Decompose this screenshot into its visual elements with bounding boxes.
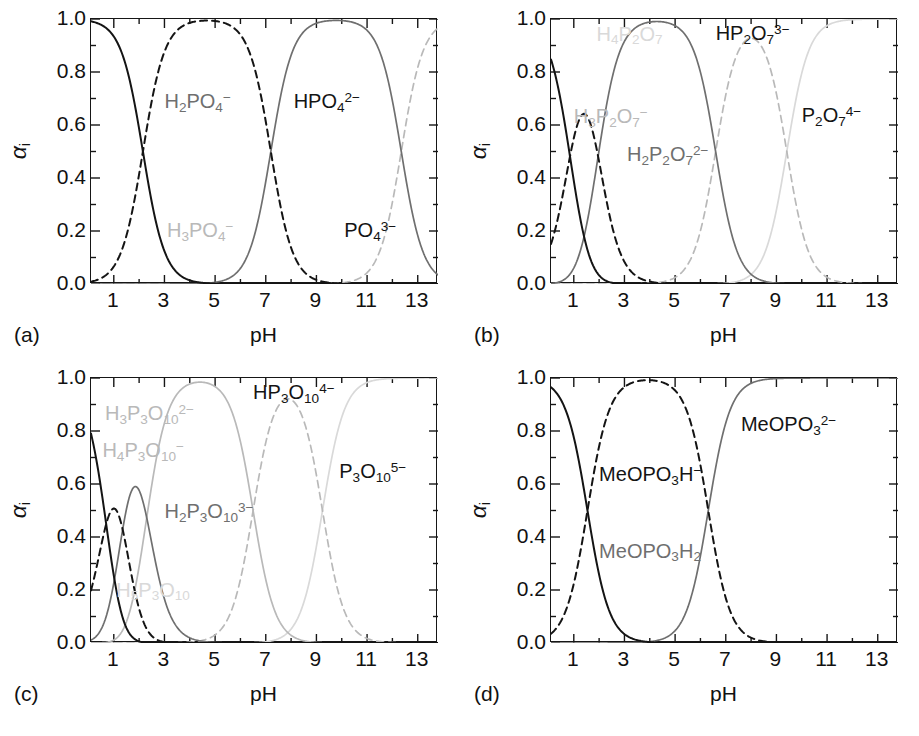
y-tick-labels-b: 0.00.20.40.60.81.0 [494, 18, 546, 283]
species-label: MeOPO3H2 [599, 541, 701, 567]
y-tick-label: 0.4 [500, 525, 546, 546]
y-tick-label: 0.8 [40, 60, 86, 81]
x-tick-label: 11 [815, 648, 837, 669]
x-tick-label: 1 [567, 648, 579, 669]
x-tick-label: 11 [355, 648, 377, 669]
x-tick-label: 11 [815, 289, 837, 310]
y-tick-label: 0.6 [40, 472, 86, 493]
y-tick-label: 0.8 [40, 419, 86, 440]
y-tick-labels-c: 0.00.20.40.60.81.0 [34, 377, 86, 642]
x-tick-label: 5 [668, 648, 680, 669]
curve-canvas-b [551, 19, 898, 284]
x-tick-label: 1 [107, 648, 119, 669]
y-tick-label: 1.0 [500, 366, 546, 387]
plot-area-c: H5P3O10H4P3O10−H3P3O102−H2P3O103−HP3O104… [90, 377, 437, 642]
species-label: MeOPO3H− [599, 461, 701, 491]
y-tick-label: 1.0 [40, 7, 86, 28]
panel-a: 0.00.20.40.60.81.0 αi H3PO4−H2PO4−HPO42−… [0, 0, 460, 355]
y-tick-label: 0.0 [40, 631, 86, 652]
y-axis-title-b: αi [465, 134, 493, 168]
x-tick-label: 9 [770, 648, 782, 669]
panel-label-a: (a) [14, 323, 40, 347]
y-tick-label: 0.4 [40, 525, 86, 546]
curves-d [551, 378, 896, 641]
species-label: H4P2O7 [597, 24, 663, 50]
species-curve [551, 59, 898, 284]
species-label: H2P3O103− [164, 498, 253, 528]
x-tick-label: 3 [618, 648, 630, 669]
x-tick-label: 7 [719, 648, 731, 669]
y-tick-label: 0.4 [40, 166, 86, 187]
x-tick-label: 7 [259, 289, 271, 310]
x-tick-labels-d: 135791113 [550, 648, 897, 678]
species-curve [551, 38, 898, 284]
panel-label-c: (c) [14, 682, 39, 706]
panel-c: 0.00.20.40.60.81.0 αi H5P3O10H4P3O10−H3P… [0, 355, 460, 736]
x-tick-labels-c: 135791113 [90, 648, 437, 678]
species-label: H2PO4− [164, 88, 230, 118]
y-tick-label: 1.0 [500, 7, 546, 28]
y-tick-label: 0.6 [40, 113, 86, 134]
species-label: P2O74− [802, 102, 862, 132]
species-label: H2P2O72− [627, 141, 709, 171]
species-label: P3O105− [339, 458, 406, 488]
y-tick-label: 0.2 [500, 219, 546, 240]
species-label: H3PO4− [167, 217, 233, 247]
x-axis-title-d: pH [664, 682, 784, 706]
panel-label-b: (b) [474, 323, 500, 347]
y-tick-label: 0.8 [500, 419, 546, 440]
x-axis-title-c: pH [204, 682, 324, 706]
species-label: H4P3O10− [102, 437, 184, 467]
x-tick-label: 7 [259, 648, 271, 669]
x-tick-label: 7 [719, 289, 731, 310]
x-tick-label: 9 [770, 289, 782, 310]
x-tick-label: 3 [618, 289, 630, 310]
y-tick-label: 0.2 [500, 578, 546, 599]
species-label: H3P2O7− [574, 103, 648, 133]
y-tick-label: 0.0 [500, 631, 546, 652]
x-axis-title-a: pH [204, 323, 324, 347]
y-tick-label: 0.6 [500, 113, 546, 134]
x-tick-labels-b: 135791113 [550, 289, 897, 319]
species-curve [551, 378, 898, 643]
y-axis-title-a: αi [5, 134, 33, 168]
species-label: HP2O73− [716, 20, 790, 50]
y-tick-label: 1.0 [40, 366, 86, 387]
panel-d: 0.00.20.40.60.81.0 αi MeOPO3H2MeOPO3H−Me… [460, 355, 919, 736]
plot-area-a: H3PO4−H2PO4−HPO42−PO43− [90, 18, 437, 283]
species-label: H3P3O102− [105, 400, 194, 430]
species-label: H5P3O10 [116, 580, 190, 606]
y-tick-label: 0.2 [40, 578, 86, 599]
y-tick-label: 0.8 [500, 60, 546, 81]
y-axis-title-d: αi [465, 493, 493, 527]
panel-b: 0.00.20.40.60.81.0 αi H4P2O7H3P2O7−H2P2O… [460, 0, 919, 355]
species-curve [91, 487, 438, 643]
x-tick-label: 5 [208, 289, 220, 310]
y-tick-labels-d: 0.00.20.40.60.81.0 [494, 377, 546, 642]
x-axis-title-b: pH [664, 323, 784, 347]
x-tick-label: 13 [865, 289, 888, 310]
plot-area-d: MeOPO3H2MeOPO3H−MeOPO32− [550, 377, 897, 642]
curve-canvas-d [551, 378, 898, 643]
species-label: MeOPO32− [741, 411, 836, 441]
x-tick-label: 11 [355, 289, 377, 310]
y-axis-title-c: αi [5, 493, 33, 527]
x-tick-label: 1 [567, 289, 579, 310]
y-tick-label: 0.2 [40, 219, 86, 240]
x-tick-label: 5 [208, 648, 220, 669]
y-tick-label: 0.0 [40, 272, 86, 293]
x-tick-label: 3 [158, 289, 170, 310]
speciation-figure: 0.00.20.40.60.81.0 αi H3PO4−H2PO4−HPO42−… [0, 0, 919, 736]
x-tick-label: 5 [668, 289, 680, 310]
species-label: PO43− [344, 217, 396, 247]
y-tick-label: 0.4 [500, 166, 546, 187]
y-tick-labels-a: 0.00.20.40.60.81.0 [34, 18, 86, 283]
curves-b [551, 19, 896, 282]
x-tick-label: 13 [405, 289, 428, 310]
y-tick-label: 0.6 [500, 472, 546, 493]
plot-area-b: H4P2O7H3P2O7−H2P2O72−HP2O73−P2O74− [550, 18, 897, 283]
x-tick-label: 3 [158, 648, 170, 669]
y-tick-label: 0.0 [500, 272, 546, 293]
panel-label-d: (d) [474, 682, 500, 706]
x-tick-labels-a: 135791113 [90, 289, 437, 319]
